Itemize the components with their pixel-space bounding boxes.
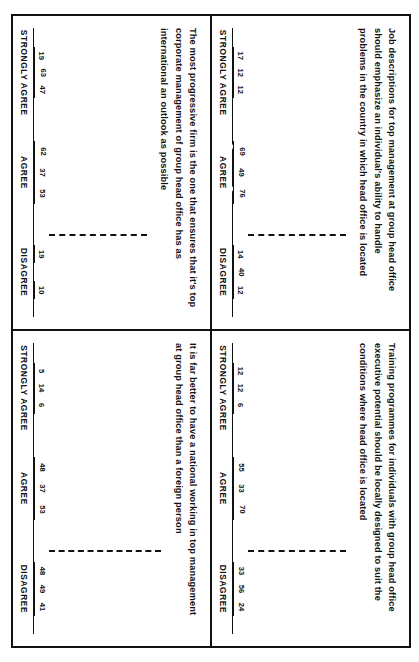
bar-cluster: 14 40 12 <box>232 245 350 299</box>
bar-value-label: 56 <box>237 585 246 593</box>
bar-slot: 19 <box>33 245 35 263</box>
bar-value-label: 49 <box>237 168 246 176</box>
group-agree: 55 33 70 <box>232 431 350 546</box>
rotated-figure-canvas: Job descriptions for top management at g… <box>0 0 419 662</box>
panel-job-descriptions: Job descriptions for top management at g… <box>212 16 409 331</box>
bar-slot: 63 <box>33 64 35 81</box>
bar-value-label: 62 <box>39 147 48 155</box>
bar-slot: 41 <box>33 598 35 616</box>
bar-slot: 70 <box>232 499 234 520</box>
bar-value-label: 53 <box>38 189 47 197</box>
bar-value-label: 10 <box>37 286 46 294</box>
bar-slot: 48 <box>33 457 35 478</box>
group-strongly-agree: 5 14 6 <box>33 345 165 431</box>
bar-slot: 14 <box>232 245 234 263</box>
bar-value-label: 6 <box>37 403 46 407</box>
bar-slot: 12 <box>232 64 234 81</box>
bar-cluster: 17 12 12 <box>232 47 350 98</box>
bar-series-1 <box>232 245 234 263</box>
bar-value-label: 14 <box>236 250 245 258</box>
bar-slot: 37 <box>33 478 35 499</box>
category-label-strongly-agree: STRONGLY AGREE <box>20 345 30 431</box>
bar-series-3 <box>33 81 35 98</box>
bar-value-label: 70 <box>238 505 247 513</box>
category-label-agree: AGREE <box>219 472 229 505</box>
bar-value-label: 63 <box>39 69 48 77</box>
panel-title: The most progressive firm is the one tha… <box>157 28 200 317</box>
bar-value-label: 48 <box>38 567 47 575</box>
bar-slot: 56 <box>232 580 234 598</box>
bar-value-label: 12 <box>236 367 245 375</box>
bar-slot: 62 <box>33 141 35 162</box>
bar-series-3 <box>33 598 35 616</box>
bar-slot: 5 <box>33 363 35 380</box>
bar-slot: 33 <box>232 478 234 499</box>
bar-value-label: 19 <box>37 250 46 258</box>
bar-cluster: 55 33 70 <box>232 457 350 520</box>
bar-series-3 <box>232 499 234 520</box>
bar-value-label: 55 <box>237 463 246 471</box>
group-disagree: 19 0 10 <box>33 230 151 316</box>
figure-frame: Job descriptions for top management at g… <box>11 14 411 648</box>
bar-slot: 14 <box>33 380 35 397</box>
bar-value-label: 12 <box>236 86 245 94</box>
bar-value-label: 53 <box>38 505 47 513</box>
bar-series-2 <box>232 263 234 281</box>
bar-series-2 <box>232 162 234 183</box>
bar-series-3 <box>232 281 234 299</box>
category-label-strongly-agree: STRONGLY AGREE <box>219 30 229 116</box>
bar-value-label: 40 <box>237 268 246 276</box>
group-disagree: 14 40 12 <box>232 230 350 316</box>
bar-value-label: 47 <box>38 86 47 94</box>
bar-series-1 <box>33 245 35 263</box>
bar-value-label: 76 <box>238 189 247 197</box>
bar-series-1 <box>33 457 35 478</box>
bar-series-1 <box>33 363 35 380</box>
bar-series-3 <box>232 183 234 204</box>
bar-value-label: 12 <box>236 69 245 77</box>
bar-cluster: 5 14 6 <box>33 363 165 414</box>
category-label-disagree: DISAGREE <box>20 565 30 614</box>
bar-slot: 12 <box>232 363 234 380</box>
bar-slot: 48 <box>33 562 35 580</box>
bar-value-label: 12 <box>236 384 245 392</box>
bar-series-3 <box>232 397 234 414</box>
category-label-strongly-agree: STRONGLY AGREE <box>219 345 229 431</box>
bar-value-label: 33 <box>237 484 246 492</box>
bar-value-label: 41 <box>38 603 47 611</box>
bar-cluster: 19 63 47 <box>33 47 151 98</box>
bar-slot: 49 <box>33 580 35 598</box>
bar-value-label: 48 <box>38 463 47 471</box>
panel-title: Job descriptions for top management at g… <box>356 28 399 317</box>
bar-slot: 40 <box>232 263 234 281</box>
bar-slot: 24 <box>232 598 234 616</box>
bar-slot: 19 <box>33 47 35 64</box>
bar-groups: 5 14 6 <box>33 345 165 632</box>
bar-cluster: 12 12 6 <box>232 363 350 414</box>
bar-series-1 <box>33 47 35 64</box>
bar-cluster: 33 56 24 <box>232 562 350 616</box>
bar-value-label: 37 <box>38 168 47 176</box>
bar-slot: 37 <box>33 162 35 183</box>
bar-slot: 17 <box>232 47 234 64</box>
bar-slot: 12 <box>232 380 234 397</box>
bar-series-1 <box>232 562 234 580</box>
bar-value-label: 17 <box>236 52 245 60</box>
group-strongly-agree: 19 63 47 <box>33 30 151 116</box>
bar-slot: 6 <box>33 397 35 414</box>
chart-area: 5 14 6 <box>19 343 165 634</box>
bar-slot: 6 <box>232 397 234 414</box>
bar-series-3 <box>33 281 35 299</box>
bar-series-2 <box>33 162 35 183</box>
bar-groups: 12 12 6 <box>232 345 350 632</box>
category-label-disagree: DISAGREE <box>219 248 229 297</box>
category-label-disagree: DISAGREE <box>20 248 30 297</box>
group-agree: 62 37 53 <box>33 116 151 230</box>
bar-series-3 <box>232 81 234 98</box>
category-label-disagree: DISAGREE <box>219 565 229 614</box>
bar-slot: 10 <box>33 281 35 299</box>
bar-value-label: 33 <box>237 567 246 575</box>
bar-series-1 <box>232 141 234 162</box>
panel-title: It is far better to have a national work… <box>171 343 200 634</box>
figure-bottom-row: The most progressive firm is the one tha… <box>13 16 212 646</box>
